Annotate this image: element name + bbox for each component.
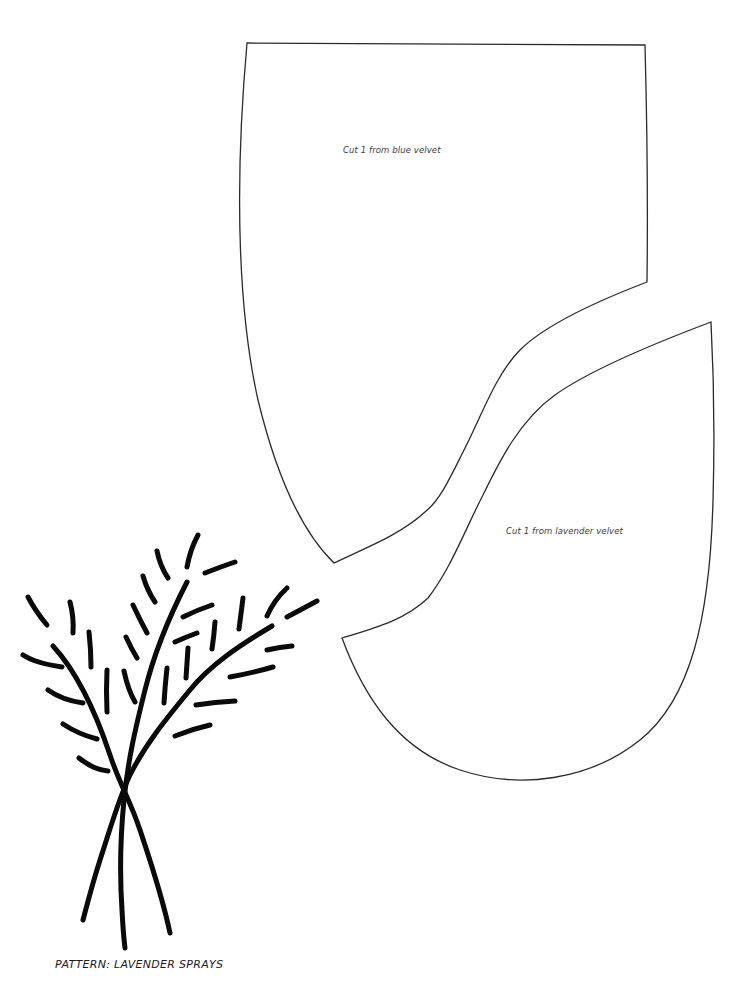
leaf-dash bbox=[287, 601, 317, 617]
leaf-dash bbox=[267, 588, 287, 616]
leaf-dash bbox=[186, 648, 188, 678]
leaf-dash bbox=[164, 668, 167, 703]
leaf-dash bbox=[48, 690, 83, 703]
leaf-dash bbox=[89, 632, 91, 667]
leaf-dash bbox=[79, 758, 108, 771]
leaf-dash bbox=[157, 551, 168, 578]
leaf-dash bbox=[124, 671, 135, 702]
blue-velvet-cut-instruction: Cut 1 from blue velvet bbox=[343, 145, 441, 155]
lavender-velvet-cut-instruction: Cut 1 from lavender velvet bbox=[506, 526, 623, 536]
leaf-dash bbox=[133, 605, 147, 633]
leaf-dash bbox=[175, 633, 197, 642]
left-stem bbox=[53, 646, 170, 933]
leaf-dash bbox=[187, 535, 198, 567]
leaf-dash bbox=[230, 667, 273, 677]
leaf-dash bbox=[126, 637, 137, 658]
leaf-dash bbox=[212, 622, 215, 649]
leaf-dash bbox=[196, 701, 235, 705]
leaf-dash bbox=[267, 646, 292, 650]
middle-stem bbox=[121, 582, 187, 948]
pattern-page: Cut 1 from blue velvet Cut 1 from lavend… bbox=[0, 0, 743, 1000]
leaf-dash bbox=[239, 598, 243, 629]
leaf-dash bbox=[183, 605, 212, 617]
leaf-dash bbox=[143, 576, 155, 602]
leaf-dash bbox=[205, 562, 235, 573]
leaf-dash bbox=[107, 670, 108, 712]
leaf-dash bbox=[63, 724, 97, 739]
right-stem bbox=[83, 626, 272, 920]
leaf-dash bbox=[23, 655, 62, 667]
pattern-caption: PATTERN: LAVENDER SPRAYS bbox=[55, 958, 223, 971]
leaf-dash bbox=[175, 725, 210, 736]
leaf-dash bbox=[70, 602, 73, 633]
lavender-spray-illustration bbox=[23, 535, 317, 948]
leaf-dash bbox=[28, 597, 47, 625]
